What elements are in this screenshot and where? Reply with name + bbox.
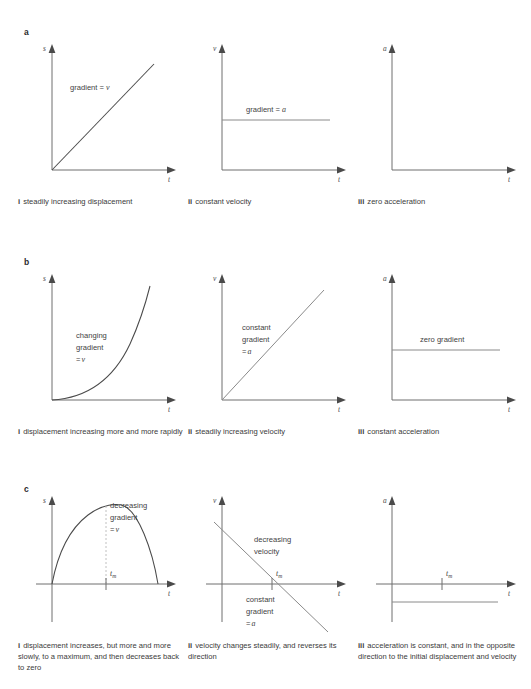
annotation-line-1: constant bbox=[242, 323, 272, 332]
x-axis-arrowhead bbox=[337, 397, 346, 404]
y-axis-label: a bbox=[383, 44, 387, 53]
y-axis-label: s bbox=[43, 274, 46, 283]
y-axis-label: a bbox=[383, 496, 387, 505]
caption-text: steadily increasing velocity bbox=[195, 427, 285, 436]
x-axis-arrowhead bbox=[167, 167, 176, 174]
annotation-line-3: constant bbox=[246, 595, 276, 604]
data-line bbox=[52, 64, 154, 170]
annotation-line-5: =a bbox=[246, 619, 255, 628]
motion-graphs-figure: a s t gradient =v isteadily increasing d… bbox=[0, 0, 531, 689]
x-axis-arrowhead bbox=[507, 397, 516, 404]
x-axis-arrowhead bbox=[507, 581, 516, 588]
y-axis-arrowhead bbox=[389, 44, 396, 53]
panel-a-i: s t gradient =v bbox=[18, 38, 188, 238]
panel-b-iii: a t zero gradient bbox=[358, 268, 528, 468]
caption-text: velocity changes steadily, and reverses … bbox=[188, 641, 337, 661]
caption-numeral: ii bbox=[188, 641, 192, 650]
caption-b-i: idisplacement increasing more and more r… bbox=[18, 426, 183, 437]
panel-a-iii: a t bbox=[358, 38, 528, 238]
zero-gradient-annotation: zero gradient bbox=[420, 335, 465, 344]
caption-b-ii: iisteadily increasing velocity bbox=[188, 426, 353, 437]
caption-numeral: iii bbox=[358, 641, 364, 650]
caption-c-iii: iiiacceleration is constant, and in the … bbox=[358, 640, 523, 662]
panel-b-i: s t changing gradient =v bbox=[18, 268, 188, 468]
caption-text: constant acceleration bbox=[367, 427, 439, 436]
x-axis-label: t bbox=[508, 405, 511, 414]
annotation-line-1: decreasing bbox=[254, 535, 291, 544]
caption-text: displacement increasing more and more ra… bbox=[23, 427, 183, 436]
caption-a-i: isteadily increasing displacement bbox=[18, 196, 183, 207]
x-axis-label: t bbox=[508, 589, 511, 598]
caption-text: zero acceleration bbox=[367, 197, 425, 206]
y-axis-label: v bbox=[213, 44, 217, 53]
x-axis-label: t bbox=[338, 589, 341, 598]
x-axis-label: t bbox=[338, 405, 341, 414]
y-axis-arrowhead bbox=[219, 274, 226, 283]
data-curve bbox=[52, 505, 158, 584]
x-axis-label: t bbox=[168, 589, 171, 598]
annotation-line-3: =v bbox=[76, 355, 85, 364]
annotation-line-3: =a bbox=[242, 347, 251, 356]
panel-b-ii: v t constant gradient =a bbox=[188, 268, 358, 468]
caption-numeral: i bbox=[18, 197, 20, 206]
y-axis-arrowhead bbox=[389, 496, 396, 505]
gradient-annotation: gradient =a bbox=[246, 105, 286, 114]
t-max-label: tm bbox=[110, 569, 116, 579]
annotation-line-4: gradient bbox=[246, 607, 274, 616]
caption-numeral: i bbox=[18, 641, 20, 650]
annotation-line-2: gradient bbox=[76, 343, 104, 352]
caption-c-ii: iivelocity changes steadily, and reverse… bbox=[188, 640, 353, 662]
y-axis-arrowhead bbox=[49, 496, 56, 505]
annotation-line-2: gradient bbox=[242, 335, 270, 344]
y-axis-arrowhead bbox=[219, 44, 226, 53]
y-axis-label: v bbox=[213, 496, 217, 505]
y-axis-arrowhead bbox=[49, 44, 56, 53]
caption-text: displacement increases, but more and mor… bbox=[18, 641, 179, 672]
caption-numeral: iii bbox=[358, 427, 364, 436]
x-axis-arrowhead bbox=[337, 581, 346, 588]
caption-numeral: ii bbox=[188, 197, 192, 206]
y-axis-label: a bbox=[383, 274, 387, 283]
x-axis-arrowhead bbox=[167, 581, 176, 588]
annotation-line-2: velocity bbox=[254, 547, 280, 556]
caption-a-iii: iiizero acceleration bbox=[358, 196, 523, 207]
caption-numeral: ii bbox=[188, 427, 192, 436]
caption-a-ii: iiconstant velocity bbox=[188, 196, 353, 207]
x-axis-arrowhead bbox=[507, 167, 516, 174]
annotation-line-2: gradient bbox=[110, 513, 138, 522]
y-axis-label: s bbox=[43, 496, 46, 505]
row-label-b: b bbox=[24, 257, 29, 267]
x-axis-arrowhead bbox=[337, 167, 346, 174]
panel-a-ii: v t gradient =a bbox=[188, 38, 358, 238]
caption-b-iii: iiiconstant acceleration bbox=[358, 426, 523, 437]
caption-text: constant velocity bbox=[195, 197, 251, 206]
caption-text: acceleration is constant, and in the opp… bbox=[358, 641, 516, 661]
x-axis-arrowhead bbox=[167, 397, 176, 404]
caption-text: steadily increasing displacement bbox=[23, 197, 132, 206]
annotation-line-3: =v bbox=[110, 525, 119, 534]
annotation-line-1: decreasing bbox=[110, 501, 147, 510]
y-axis-arrowhead bbox=[389, 274, 396, 283]
y-axis-arrowhead bbox=[49, 274, 56, 283]
annotation-line-1: changing bbox=[76, 331, 107, 340]
caption-numeral: iii bbox=[358, 197, 364, 206]
data-line bbox=[222, 290, 324, 400]
x-axis-label: t bbox=[168, 405, 171, 414]
gradient-annotation: gradient =v bbox=[70, 83, 110, 92]
y-axis-arrowhead bbox=[219, 496, 226, 505]
t-max-label: tm bbox=[276, 569, 282, 579]
x-axis-label: t bbox=[508, 175, 511, 184]
y-axis-label: v bbox=[213, 274, 217, 283]
caption-c-i: idisplacement increases, but more and mo… bbox=[18, 640, 183, 674]
row-label-a: a bbox=[24, 27, 29, 37]
x-axis-label: t bbox=[168, 175, 171, 184]
caption-numeral: i bbox=[18, 427, 20, 436]
x-axis-label: t bbox=[338, 175, 341, 184]
t-max-label: tm bbox=[446, 569, 452, 579]
y-axis-label: s bbox=[43, 44, 46, 53]
